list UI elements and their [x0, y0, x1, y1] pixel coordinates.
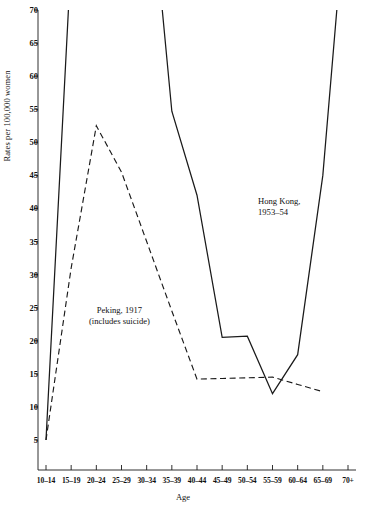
annotation-peking-line1: Peking, 1917: [89, 305, 150, 316]
y-axis-tick-value: 55: [16, 105, 38, 114]
x-axis-tick-label: 25–29: [112, 476, 131, 485]
y-axis-tick-value: 15: [16, 370, 38, 379]
x-axis-tick-label: 20–24: [87, 476, 106, 485]
y-axis-tick-value: 45: [16, 171, 38, 180]
data-series-group: [46, 0, 348, 440]
x-axis-tick-label: 50–54: [238, 476, 257, 485]
x-axis-tick-label: 15–19: [62, 476, 81, 485]
x-axis-tick-label: 40–44: [188, 476, 207, 485]
y-axis-tick-value: 70: [16, 6, 38, 15]
annotation-hong-kong-line1: Hong Kong,: [258, 196, 301, 207]
y-axis-tick-value: 20: [16, 337, 38, 346]
annotation-hong-kong-line2: 1953–54: [258, 207, 301, 218]
y-axis-tick-value: 5: [16, 436, 38, 445]
axes-group: [34, 10, 356, 470]
y-axis-tick-value: 40: [16, 204, 38, 213]
y-axis-tick-value: 60: [16, 72, 38, 81]
annotation-peking-line2: (includes suicide): [89, 316, 150, 327]
series-line-peking: [46, 126, 323, 440]
y-axis-title: Rates per 100,000 women: [2, 41, 12, 191]
annotation-hong-kong: Hong Kong, 1953–54: [258, 196, 301, 217]
x-axis-tick-label: 60–64: [288, 476, 307, 485]
annotation-peking: Peking, 1917 (includes suicide): [89, 305, 150, 326]
y-axis-tick-value: 25: [16, 304, 38, 313]
y-axis-tick-value: 30: [16, 271, 38, 280]
x-axis-tick-label: 55–59: [263, 476, 282, 485]
x-axis-title: Age: [0, 492, 366, 502]
plot-area: [0, 0, 366, 510]
x-axis-ticks: [46, 465, 348, 470]
x-axis-tick-label: 10–14: [37, 476, 56, 485]
x-axis-tick-label: 65–69: [314, 476, 333, 485]
x-axis-tick-label: 35–39: [163, 476, 182, 485]
chart-figure: Rates per 100,000 women Age 706560555045…: [0, 0, 366, 510]
x-axis-tick-label: 70+: [342, 476, 354, 485]
y-axis-tick-value: 10: [16, 403, 38, 412]
y-axis-tick-value: 65: [16, 39, 38, 48]
y-axis-tick-value: 50: [16, 138, 38, 147]
x-axis-tick-label: 45–49: [213, 476, 232, 485]
series-line-hong-kong: [46, 0, 348, 440]
y-axis-tick-value: 35: [16, 238, 38, 247]
x-axis-tick-label: 30–34: [137, 476, 156, 485]
